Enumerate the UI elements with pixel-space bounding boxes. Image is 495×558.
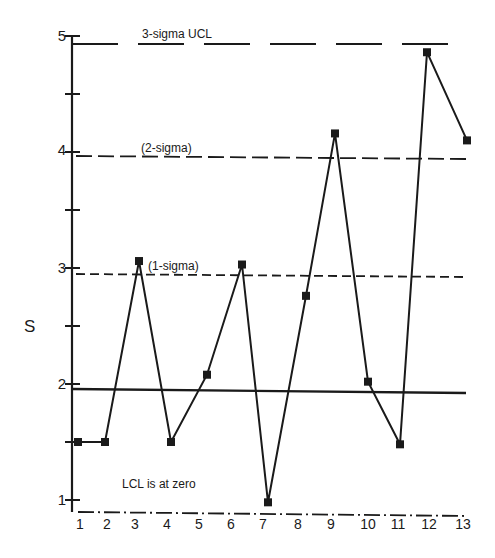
x-tick-label-2: 2 (95, 517, 119, 531)
data-series-line (78, 52, 467, 502)
x-tick-label-1: 1 (68, 517, 92, 531)
data-point-marker (264, 498, 272, 506)
x-tick-label-10: 10 (356, 517, 380, 531)
data-point-marker (203, 371, 211, 379)
y-tick-label-5: 5 (50, 28, 66, 43)
x-tick-label-4: 4 (155, 517, 179, 531)
control-chart (0, 0, 495, 558)
x-tick-label-8: 8 (286, 517, 310, 531)
data-point-marker (135, 257, 143, 265)
data-point-marker (167, 438, 175, 446)
y-tick-label-4: 4 (50, 142, 66, 157)
x-tick-label-11: 11 (386, 517, 410, 531)
x-tick-label-5: 5 (187, 517, 211, 531)
ucl-label: 3-sigma UCL (142, 28, 212, 40)
data-point-marker (396, 440, 404, 448)
data-point-marker (463, 136, 471, 144)
data-point-marker (364, 378, 372, 386)
two-sigma-label: (2-sigma) (141, 142, 192, 154)
one-sigma-line (76, 274, 466, 277)
one-sigma-label: (1-sigma) (148, 260, 199, 272)
y-tick-label-1: 1 (50, 492, 66, 507)
y-tick-label-2: 2 (50, 376, 66, 391)
data-point-marker (74, 438, 82, 446)
y-axis-title: S (24, 318, 35, 335)
lcl-note: LCL is at zero (122, 478, 196, 490)
data-point-marker (331, 129, 339, 137)
y-tick-label-3: 3 (50, 260, 66, 275)
x-tick-label-6: 6 (219, 517, 243, 531)
data-point-marker (423, 48, 431, 56)
two-sigma-line (76, 156, 466, 159)
x-tick-label-3: 3 (123, 517, 147, 531)
data-point-marker (238, 261, 246, 269)
x-tick-label-12: 12 (417, 517, 441, 531)
x-tick-label-7: 7 (251, 517, 275, 531)
x-tick-label-13: 13 (451, 517, 475, 531)
data-point-marker (302, 292, 310, 300)
center-line (72, 389, 466, 393)
x-tick-label-9: 9 (319, 517, 343, 531)
data-point-marker (101, 438, 109, 446)
